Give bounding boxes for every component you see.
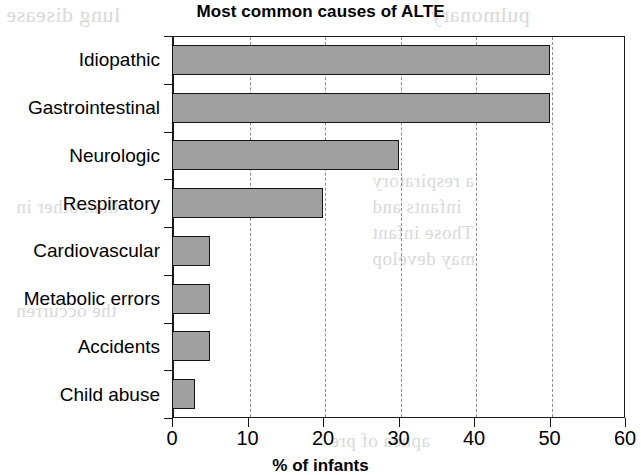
bar bbox=[172, 284, 210, 314]
y-axis-labels: IdiopathicGastrointestinalNeurologicResp… bbox=[0, 36, 162, 418]
bar bbox=[172, 379, 195, 409]
x-axis-tick-label: 40 bbox=[463, 428, 485, 448]
y-axis-label: Metabolic errors bbox=[0, 275, 162, 323]
bar bbox=[172, 45, 550, 75]
bar bbox=[172, 188, 323, 218]
x-axis-tick bbox=[399, 418, 400, 427]
bar-row bbox=[172, 132, 625, 180]
x-axis-tick-label: 50 bbox=[538, 428, 560, 448]
x-axis-tick-label: 0 bbox=[166, 428, 177, 448]
y-axis-label: Cardiovascular bbox=[0, 227, 162, 275]
bar-row bbox=[172, 36, 625, 84]
bar-row bbox=[172, 323, 625, 371]
bar bbox=[172, 331, 210, 361]
x-axis-title: % of infants bbox=[0, 456, 641, 475]
bar-row bbox=[172, 275, 625, 323]
x-axis-tick-label: 20 bbox=[312, 428, 334, 448]
x-axis-tick bbox=[625, 418, 626, 427]
x-axis-tick bbox=[172, 418, 173, 427]
x-axis-tick-label: 10 bbox=[236, 428, 258, 448]
page-bleed-artifact: apnea of pre bbox=[330, 430, 430, 452]
bar-row bbox=[172, 179, 625, 227]
y-axis-label: Accidents bbox=[0, 323, 162, 371]
bar bbox=[172, 93, 550, 123]
y-axis-label: Gastrointestinal bbox=[0, 84, 162, 132]
x-axis-tick bbox=[474, 418, 475, 427]
x-axis-tick-label: 30 bbox=[387, 428, 409, 448]
chart-title: Most common causes of ALTE bbox=[0, 2, 641, 22]
x-axis-tick-label: 60 bbox=[614, 428, 636, 448]
y-axis-label: Respiratory bbox=[0, 179, 162, 227]
y-axis-label: Child abuse bbox=[0, 370, 162, 418]
bar-series bbox=[172, 36, 625, 418]
x-axis-tick bbox=[323, 418, 324, 427]
bar-row bbox=[172, 227, 625, 275]
y-axis-label: Neurologic bbox=[0, 132, 162, 180]
bar-row bbox=[172, 370, 625, 418]
x-axis-tick bbox=[248, 418, 249, 427]
bar-row bbox=[172, 84, 625, 132]
bar bbox=[172, 236, 210, 266]
bar bbox=[172, 140, 399, 170]
x-axis-tick bbox=[550, 418, 551, 427]
y-axis-label: Idiopathic bbox=[0, 36, 162, 84]
